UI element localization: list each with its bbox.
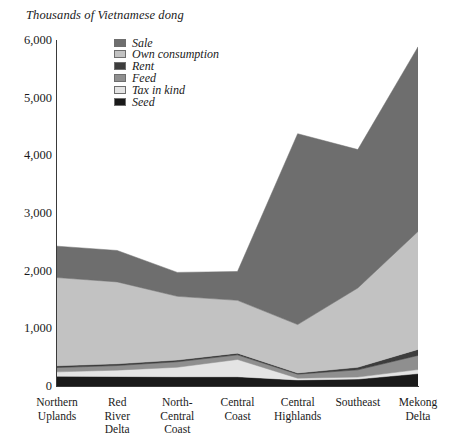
y-tick-label: 6,000 [4, 34, 52, 47]
y-tick-label: 5,000 [4, 92, 52, 105]
y-axis-tick-labels: 01,0002,0003,0004,0005,0006,000 [0, 0, 52, 448]
legend-swatch-icon [114, 39, 126, 47]
legend-item: Feed [114, 72, 219, 83]
legend-swatch-icon [114, 86, 126, 94]
legend-item: Rent [114, 61, 219, 72]
x-tick-label: Central Coast [221, 396, 255, 423]
legend-swatch-icon [114, 74, 126, 82]
chart-legend: SaleOwn consumptionRentFeedTax in kindSe… [114, 37, 219, 108]
area-chart: Thousands of Vietnamese dong 01,0002,000… [0, 0, 461, 448]
x-tick-label: Central Highlands [274, 396, 321, 423]
x-tick-label: Red River Delta [104, 396, 130, 437]
legend-swatch-icon [114, 98, 126, 106]
x-tick-label: North- Central Coast [160, 396, 194, 437]
legend-item-label: Tax in kind [132, 84, 185, 96]
plot-area [57, 40, 418, 386]
x-axis-tick-labels: Northern UplandsRed River DeltaNorth- Ce… [0, 396, 461, 448]
x-axis-line [56, 386, 419, 387]
y-tick-label: 1,000 [4, 322, 52, 335]
x-tick-label: Southeast [335, 396, 380, 410]
y-tick-label: 0 [4, 380, 52, 393]
legend-swatch-icon [114, 62, 126, 70]
stacked-area-paths [57, 40, 418, 386]
y-tick-label: 4,000 [4, 149, 52, 162]
y-tick-label: 3,000 [4, 207, 52, 220]
legend-item: Own consumption [114, 49, 219, 60]
legend-item: Seed [114, 96, 219, 107]
legend-item-label: Seed [132, 96, 155, 108]
legend-swatch-icon [114, 50, 126, 58]
y-tick-label: 2,000 [4, 265, 52, 278]
x-tick-label: Northern Uplands [36, 396, 78, 423]
x-tick-label: Mekong Delta [399, 396, 437, 423]
legend-item: Tax in kind [114, 84, 219, 95]
